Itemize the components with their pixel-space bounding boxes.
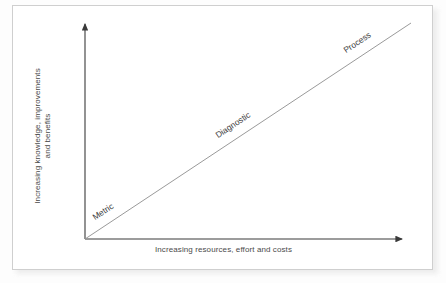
diagram-canvas bbox=[13, 6, 434, 271]
x-axis-label: Increasing resources, effort and costs bbox=[13, 245, 434, 255]
figure-frame: Metric Diagnostic Process Increasing res… bbox=[12, 5, 433, 270]
y-axis-label-line-2: and benefits bbox=[43, 20, 53, 252]
y-axis-label: Increasing knowledge, improvements and b… bbox=[33, 20, 53, 252]
figure-container: Metric Diagnostic Process Increasing res… bbox=[0, 0, 446, 283]
maturity-progression-line bbox=[85, 23, 411, 239]
y-axis-label-line-1: Increasing knowledge, improvements bbox=[33, 20, 43, 252]
